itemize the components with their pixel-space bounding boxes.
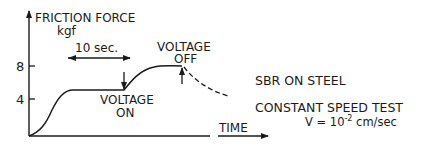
voltage-on-label-1: VOLTAGE xyxy=(100,93,154,107)
y-tick-label-8: 8 xyxy=(16,59,24,74)
friction-force-diagram: FRICTION FORCE kgf 10 sec. 8 4 VOLTAGE O… xyxy=(0,0,433,146)
voltage-off-label-2: OFF xyxy=(174,52,197,66)
speed-prefix: V = 10 xyxy=(305,115,344,129)
speed-unit: cm/sec xyxy=(352,115,396,129)
test-type-note: CONSTANT SPEED TEST xyxy=(255,100,403,115)
friction-decay-dashed xyxy=(184,67,228,96)
material-note: SBR ON STEEL xyxy=(255,73,346,88)
interval-label: 10 sec. xyxy=(75,41,118,55)
speed-note: V = 10-2 cm/sec xyxy=(305,114,397,129)
y-axis-unit: kgf xyxy=(57,24,77,38)
speed-exponent: -2 xyxy=(344,114,352,123)
y-axis-label: FRICTION FORCE xyxy=(35,11,135,25)
x-axis-label: TIME xyxy=(218,121,248,135)
voltage-on-label-2: ON xyxy=(116,106,134,120)
y-tick-label-4: 4 xyxy=(16,92,24,107)
